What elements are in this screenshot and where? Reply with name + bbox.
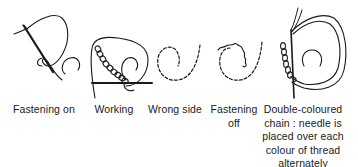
caption-line: Working bbox=[91, 103, 137, 117]
caption-line: placed over each bbox=[258, 130, 348, 144]
fastening-on-illustration bbox=[14, 16, 80, 80]
caption-double-coloured-chain: Double-coloured chain : needle is placed… bbox=[258, 103, 348, 167]
needle-icon bbox=[291, 30, 294, 98]
caption-line: Fastening bbox=[209, 103, 259, 117]
fastening-off-illustration bbox=[218, 42, 262, 80]
caption-wrong-side: Wrong side bbox=[143, 103, 207, 117]
caption-line: alternately bbox=[258, 157, 348, 167]
caption-line: off bbox=[209, 117, 259, 131]
caption-fastening-off: Fastening off bbox=[209, 103, 259, 130]
wrong-side-illustration bbox=[158, 45, 200, 80]
caption-line: Fastening on bbox=[10, 103, 78, 117]
caption-line: chain : needle is bbox=[258, 117, 348, 131]
caption-line: Wrong side bbox=[143, 103, 207, 117]
caption-working: Working bbox=[91, 103, 137, 117]
double-coloured-chain-illustration bbox=[281, 8, 346, 98]
stitch-diagrams bbox=[0, 0, 358, 100]
caption-line: Double-coloured bbox=[258, 103, 348, 117]
caption-fastening-on: Fastening on bbox=[10, 103, 78, 117]
working-illustration bbox=[91, 37, 152, 98]
caption-line: colour of thread bbox=[258, 144, 348, 158]
